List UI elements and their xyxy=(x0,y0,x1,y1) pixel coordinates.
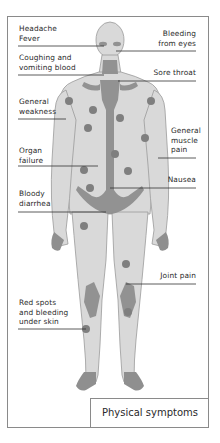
spot xyxy=(89,106,97,114)
label-sore-throat: Sore throat xyxy=(154,68,197,78)
label-headache-fever: Headache Fever xyxy=(19,24,57,43)
spot xyxy=(124,167,132,175)
label-bleeding-eyes: Bleeding from eyes xyxy=(158,29,196,48)
label-general-weakness: General weakness xyxy=(19,97,56,116)
throat-highlight xyxy=(102,60,118,74)
label-joint-pain: Joint pain xyxy=(160,271,196,281)
label-organ-failure: Organ failure xyxy=(19,146,43,165)
spot xyxy=(116,114,124,122)
spot xyxy=(141,134,149,142)
spot xyxy=(80,222,88,230)
label-bloody-diarrhea: Bloody diarrhea xyxy=(19,189,51,208)
label-muscle-pain: General muscle pain xyxy=(171,126,201,155)
left-eye-highlight xyxy=(99,42,107,46)
spot xyxy=(86,184,94,192)
spot xyxy=(80,166,88,174)
spot xyxy=(111,150,119,158)
spot xyxy=(124,308,132,316)
right-eye-highlight xyxy=(113,42,121,46)
left-foot xyxy=(76,372,96,391)
spot xyxy=(122,260,130,268)
spot xyxy=(65,97,73,105)
spot xyxy=(84,124,92,132)
label-red-spots: Red spots and bleeding under skin xyxy=(19,298,68,327)
diagram-title: Physical symptoms xyxy=(91,407,209,418)
label-coughing-vomiting: Coughing and vomiting blood xyxy=(19,53,76,72)
caption-box: Physical symptoms xyxy=(90,398,209,428)
right-foot xyxy=(124,372,144,391)
head xyxy=(96,22,124,58)
spot xyxy=(147,97,155,105)
label-nausea: Nausea xyxy=(168,175,196,185)
